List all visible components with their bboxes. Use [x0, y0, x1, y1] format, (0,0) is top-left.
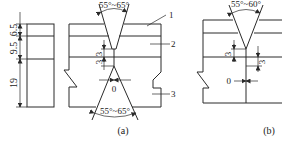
groove-bevel-right: [116, 4, 129, 49]
panel-b-single-v-groove: 55°~60° 3 3 0 (b): [197, 0, 282, 137]
caption-b: (b): [263, 125, 275, 137]
root-gap-label: 0: [112, 84, 117, 94]
groove-bevel-left: [229, 5, 246, 49]
angle-arc-top: [232, 10, 260, 14]
dim-19: 19: [8, 78, 19, 88]
root-face-left-label: 3: [223, 51, 233, 56]
dim-6.5: 6.5: [8, 24, 19, 37]
angle-label-top: 55°~65°: [99, 0, 129, 10]
angle-label-bottom: 55°~65°: [100, 106, 130, 116]
root-gap-label: 0: [227, 76, 232, 86]
panel-a-double-v-groove: 55°~65° 55°~65° 3 3 0 1 2 3 (a): [64, 0, 176, 137]
dim-9.5: 9.5: [8, 42, 19, 55]
callout-1: 1: [169, 10, 174, 20]
callout-2: 2: [171, 39, 176, 49]
weld-groove-diagram: 6.5 9.5 19 55°~65° 55°~65° 3: [0, 0, 282, 142]
groove-bevel-left: [99, 4, 112, 49]
callout-3: 3: [171, 89, 176, 99]
root-face-top-label: 3: [94, 51, 104, 56]
caption-a: (a): [117, 125, 128, 137]
root-face-bottom-label: 3: [94, 59, 104, 64]
groove-bevel-right: [246, 5, 263, 49]
angle-label-top: 55°~60°: [231, 0, 261, 9]
root-face-right-label: 3: [257, 59, 267, 64]
side-elevation-view: 6.5 9.5 19: [8, 12, 54, 107]
